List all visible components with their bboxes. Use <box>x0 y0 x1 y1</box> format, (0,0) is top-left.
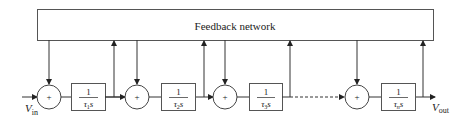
feedback-network-block: Feedback network <box>38 10 434 41</box>
numerator: 1 <box>176 87 181 97</box>
numerator: 1 <box>264 87 269 97</box>
laplace-var: s <box>180 99 184 109</box>
plus-sign: + <box>134 92 139 102</box>
laplace-var: s <box>400 99 404 109</box>
feedback-integrator-diagram: Feedback network Vin + 1 τ1s + 1 τ2s <box>0 0 469 122</box>
input-signal: Vin <box>22 97 38 117</box>
svg-text:Vin: Vin <box>25 102 38 117</box>
plus-sign: + <box>354 92 359 102</box>
plus-sign: + <box>222 92 227 102</box>
numerator: 1 <box>86 87 91 97</box>
input-subscript: in <box>32 108 38 117</box>
numerator: 1 <box>396 87 401 97</box>
output-signal: Vout <box>432 101 450 115</box>
output-subscript: out <box>439 106 450 115</box>
plus-sign: + <box>46 92 51 102</box>
integrator-block-2: 1 τ2s <box>162 84 196 111</box>
integrator-block-1: 1 τ1s <box>72 84 106 111</box>
laplace-var: s <box>90 99 94 109</box>
integrator-block-3: 1 τ3s <box>250 84 283 111</box>
laplace-var: s <box>267 99 271 109</box>
summing-junction-3: + <box>213 85 237 109</box>
feedback-network-label: Feedback network <box>195 20 276 32</box>
summing-junction-2: + <box>125 85 149 109</box>
integrator-block-n: 1 τns <box>382 84 416 111</box>
summing-junction-1: + <box>37 85 61 109</box>
summing-junction-n: + <box>345 85 369 109</box>
